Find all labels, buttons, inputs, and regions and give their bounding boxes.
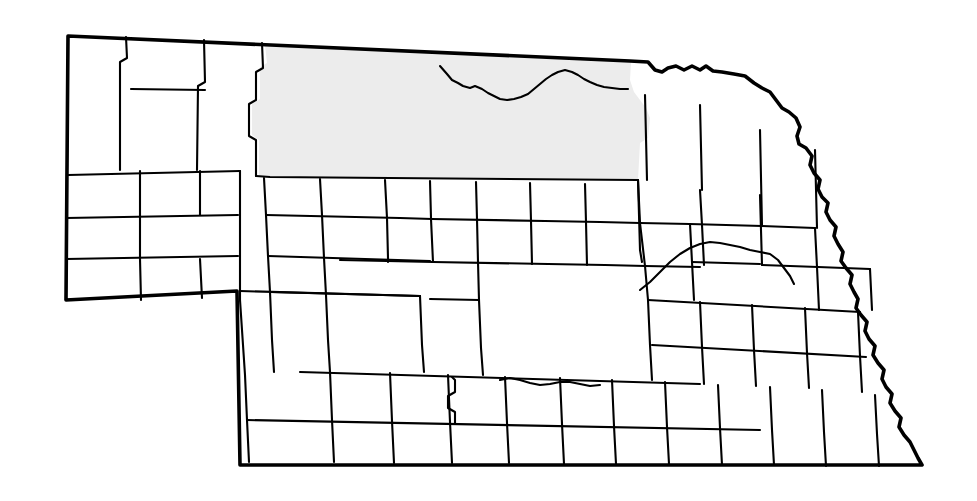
county-boundary bbox=[430, 181, 431, 218]
county-boundary bbox=[645, 266, 700, 267]
county-boundary bbox=[477, 219, 478, 262]
county-boundary bbox=[478, 262, 479, 300]
county-boundary bbox=[545, 221, 600, 222]
county-boundary bbox=[400, 218, 432, 219]
highlighted-county-group[interactable] bbox=[252, 45, 650, 180]
county-boundary bbox=[585, 184, 586, 222]
county-boundary bbox=[586, 222, 587, 265]
nebraska-county-map bbox=[0, 0, 977, 501]
county-boundary bbox=[387, 218, 388, 258]
county-boundary bbox=[600, 222, 640, 223]
county-boundary bbox=[131, 89, 205, 90]
map-svg-canvas bbox=[0, 0, 977, 501]
county-boundary bbox=[531, 221, 532, 264]
county-boundary bbox=[140, 259, 141, 300]
county-boundary bbox=[640, 223, 690, 224]
county-boundary bbox=[430, 299, 479, 300]
county-boundary bbox=[530, 183, 531, 221]
county-boundary bbox=[548, 264, 605, 265]
county-boundary bbox=[605, 265, 645, 266]
county-boundary bbox=[476, 182, 477, 219]
